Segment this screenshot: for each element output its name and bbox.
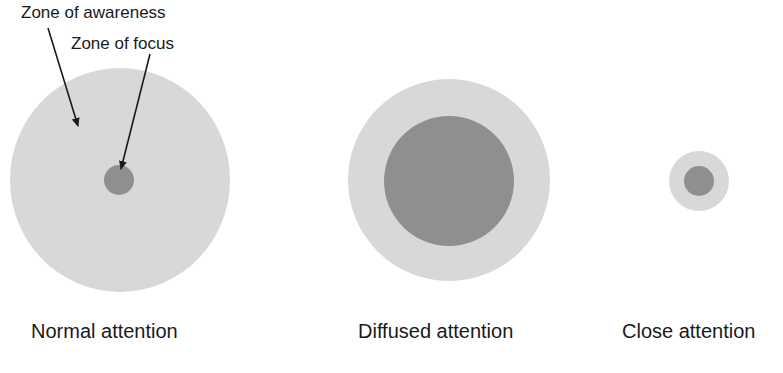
diffused-attention-label: Diffused attention [358,321,513,341]
diffused-focus-zone [384,116,514,246]
attention-diagram [0,0,783,373]
diffused-attention-figure [348,79,550,281]
normal-attention-label: Normal attention [31,321,178,341]
normal-attention-figure [10,68,230,292]
zone-of-focus-label: Zone of focus [71,35,174,52]
close-attention-figure [669,151,729,211]
close-attention-label: Close attention [622,321,755,341]
normal-focus-zone [104,165,134,195]
close-focus-zone [684,166,714,196]
zone-of-awareness-label: Zone of awareness [21,4,166,21]
